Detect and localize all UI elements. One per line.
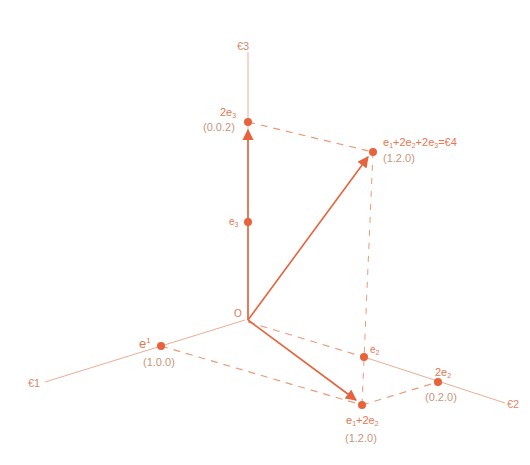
label-2e2: 2e2	[435, 366, 451, 382]
point-2e3	[244, 118, 252, 126]
label-2e3-main: 2e	[220, 106, 232, 118]
point-e3	[244, 218, 252, 226]
dashed-2e3-to-e4	[248, 122, 373, 152]
coord-e1-plus-2e2: (1.2.0)	[345, 432, 377, 444]
point-e4	[369, 148, 377, 156]
label-e3-sub: 3	[235, 221, 239, 228]
dashed-e1-to-sum	[161, 346, 362, 405]
coord-e1: (1.0.0)	[143, 356, 175, 368]
label-e4-part: +2e	[393, 136, 412, 148]
coord-e4: (1.2.0)	[383, 152, 415, 164]
label-e3: e3	[229, 216, 238, 231]
dashed-e4-to-sum	[362, 152, 373, 405]
vector-e4	[248, 157, 368, 320]
point-e2	[360, 353, 368, 361]
vector-space-diagram: €3 €1 €2 O 2e3 (0.0.2) e3 e1+2e2+2e3=€4 …	[0, 0, 530, 465]
label-2e2-sub: 2	[447, 372, 451, 379]
label-e1-plus-2e2: e1+2e2	[346, 414, 379, 430]
label-2e3: 2e3	[220, 106, 236, 122]
label-e4: e1+2e2+2e3=€4	[383, 136, 457, 152]
label-2e3-sub: 3	[232, 112, 236, 119]
point-e1	[157, 342, 165, 350]
coord-2e2: (0.2.0)	[425, 391, 457, 403]
label-e4-part: =€4	[438, 136, 457, 148]
label-sum-sub: 2	[375, 420, 379, 427]
axis1-label: €1	[28, 377, 40, 389]
label-e2-sub: 2	[376, 349, 380, 356]
point-e1-plus-2e2	[358, 401, 366, 409]
label-e2: e2	[370, 344, 379, 359]
axis3-label: €3	[237, 40, 249, 52]
label-2e2-main: 2e	[435, 366, 447, 378]
dashed-origin-to-e2	[248, 322, 364, 357]
label-e1: e1	[139, 335, 151, 350]
label-e1-sup: 1	[146, 336, 150, 345]
coord-2e3: (0.0.2)	[203, 121, 235, 133]
label-e4-part: +2e	[416, 136, 435, 148]
label-sum-part: +2e	[356, 414, 375, 426]
axis2-label: €2	[507, 398, 519, 410]
origin-label: O	[234, 308, 242, 320]
